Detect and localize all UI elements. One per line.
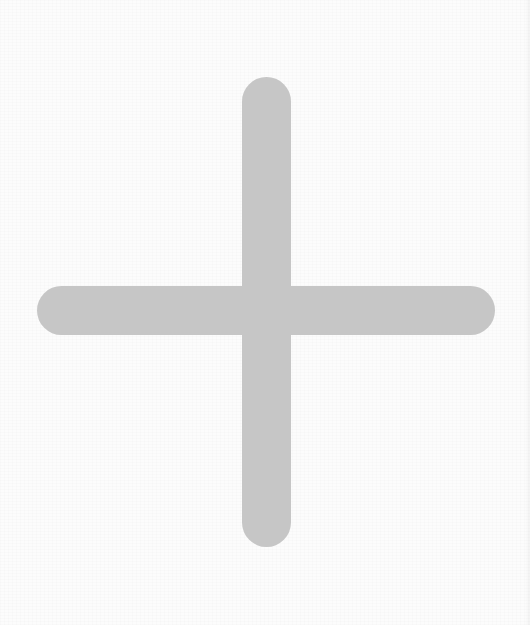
plus-icon-horizontal-bar — [37, 286, 495, 335]
plus-icon — [0, 0, 530, 625]
canvas — [0, 0, 530, 625]
